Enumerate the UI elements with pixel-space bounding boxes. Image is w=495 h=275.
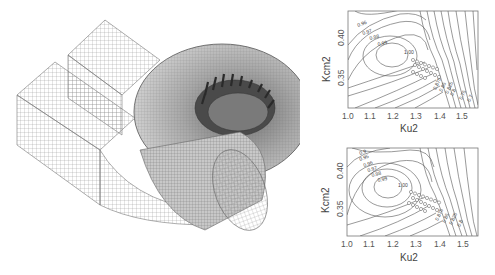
x-tick: 1.0 — [341, 239, 353, 249]
optimum-label: 1.00 — [398, 182, 408, 188]
x-tick: 1.3 — [410, 239, 422, 249]
y-tick: 0.40 — [336, 29, 346, 46]
mesh-icon — [0, 0, 300, 275]
x-tick: 1.2 — [387, 111, 399, 121]
y-tick: 0.35 — [335, 200, 345, 217]
contour-plot-top: 1.00 0.96 0.97 0.98 0.99 0.875 0.85 0.82… — [300, 0, 495, 137]
x-tick: 1.1 — [363, 239, 375, 249]
x-tick: 1.5 — [457, 239, 469, 249]
contour-plot-bottom: 1.00 0.9 0.95 0.96 0.97 0.98 0.99 0.875 … — [300, 137, 495, 274]
y-axis-label: Kcm2 — [321, 56, 332, 82]
x-tick: 1.5 — [456, 111, 468, 121]
x-tick: 1.4 — [434, 111, 446, 121]
x-tick: 1.4 — [434, 239, 446, 249]
x-axis-label: Ku2 — [400, 252, 418, 263]
x-tick: 1.1 — [364, 111, 376, 121]
y-tick: 0.40 — [335, 162, 345, 179]
pump-mesh-illustration — [0, 0, 300, 275]
x-tick: 1.3 — [410, 111, 422, 121]
x-axis-label: Ku2 — [400, 123, 418, 134]
x-tick: 1.2 — [387, 239, 399, 249]
y-axis-label: Kcm2 — [320, 187, 331, 213]
y-tick: 0.35 — [336, 69, 346, 86]
x-tick: 1.0 — [342, 111, 354, 121]
optimum-label: 1.00 — [404, 49, 414, 55]
